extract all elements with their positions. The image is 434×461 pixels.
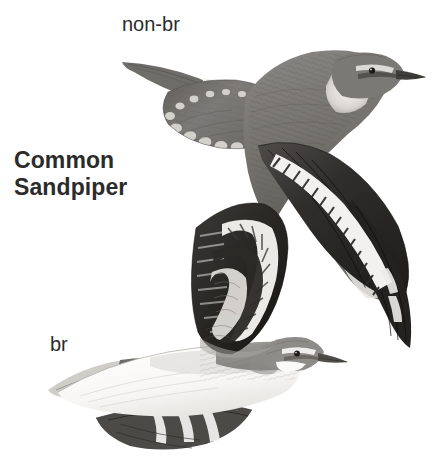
species-name: Common Sandpiper — [14, 147, 127, 201]
bird-illustration-breeding — [0, 0, 434, 461]
species-name-line-2: Sandpiper — [14, 174, 127, 201]
breeding-near-wing — [191, 203, 288, 358]
label-non-breeding: non-br — [122, 13, 180, 37]
species-name-line-1: Common — [14, 147, 127, 174]
label-breeding: br — [50, 333, 68, 357]
breeding-eye — [294, 351, 300, 357]
illustration-plate: non-br Common Sandpiper br — [0, 0, 434, 461]
